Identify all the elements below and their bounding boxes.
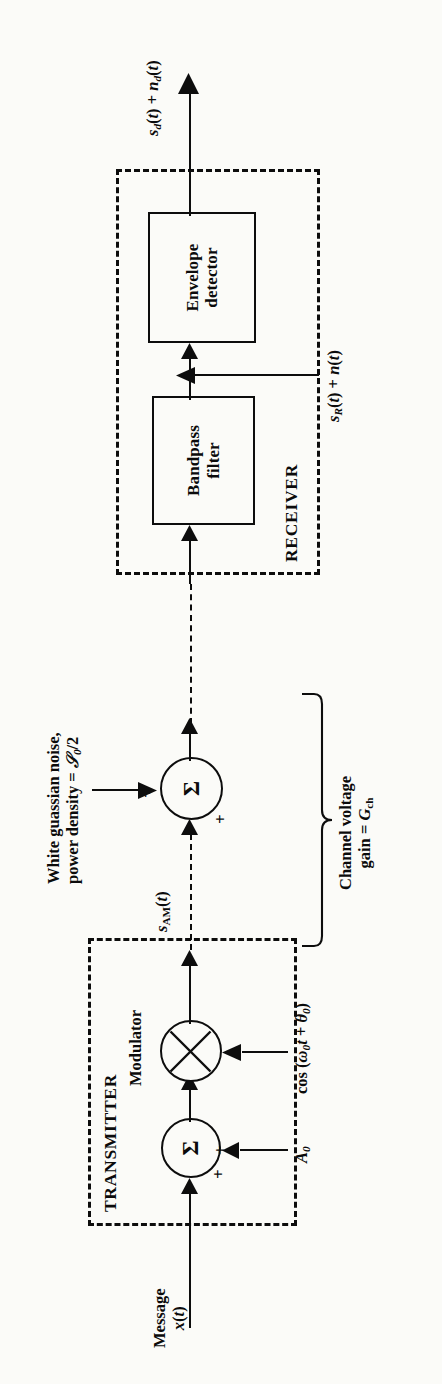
transmitter-section-label: TRANSMITTER [100,1074,121,1212]
carrier-input-line [242,1051,288,1053]
noise-label: White guassian noise, power density = 𝒮0… [44,732,85,884]
modulator-label: Modulator [126,1010,145,1086]
received-signal-arrowhead [176,367,196,384]
envelope-detector-line2: detector [202,244,221,312]
carrier-amplitude-label: A0 [292,1146,313,1163]
bandpass-filter-block: Bandpass filter [152,396,255,525]
transmitter-summer-glyph: Σ [178,1140,204,1155]
noise-input-arrowhead [138,782,158,799]
carrier-label: cos (ω0t + θ0) [292,1003,313,1094]
envelope-detector-line1: Envelope [183,244,202,312]
s-am-label: sAM(t) [152,891,173,932]
channel-summer-plus-signal: + [211,814,231,824]
modulator-output-line [189,962,191,1024]
bandpass-filter-line1: Bandpass [184,425,203,496]
diagram-canvas: TRANSMITTER Message x(t) Σ + + A0 [0,0,442,1384]
received-signal-label: sR(t) + n(t) [324,350,345,422]
noise-input-line [92,789,140,791]
diagram-page: TRANSMITTER Message x(t) Σ + + A0 [0,0,442,1384]
channel-gain-line2: gain = Gch [355,776,376,890]
bandpass-filter-line2: filter [204,425,223,496]
bandpass-input-arrowhead [181,523,199,541]
carrier-input-arrowhead [222,1044,242,1061]
channel-gain-line1: Channel voltage [336,776,355,890]
received-signal-line [192,374,319,376]
modulator-multiplier [160,1020,222,1082]
receiver-input-line [189,534,191,584]
message-label: Message x(t) [150,1288,189,1348]
receiver-section-label: RECEIVER [281,464,302,562]
channel-path-segment-2 [190,584,192,724]
channel-brace [300,692,334,948]
carrier-amplitude-arrowhead [222,1142,240,1159]
channel-gain-label: Channel voltage gain = Gch [336,776,377,890]
noise-label-line2: power density = 𝒮0/2 [63,732,84,884]
channel-summer: Σ [160,757,223,820]
envelope-input-arrowhead [181,341,199,359]
channel-path-segment-1 [190,834,192,950]
output-signal-label: sd(t) + nd(t) [143,60,164,136]
multiplier-cross-icon [161,1023,219,1081]
output-line [189,86,191,216]
envelope-detector-block: Envelope detector [148,212,256,343]
carrier-amplitude-input-line [240,1149,288,1151]
channel-summer-glyph: Σ [179,781,205,796]
noise-label-line1: White guassian noise, [44,732,63,884]
output-arrowhead [178,72,200,94]
message-input-arrowhead [181,1176,199,1194]
modulator-output-arrowhead [181,948,199,966]
message-label-line2: x(t) [169,1288,188,1348]
transmitter-summer-plus-message: + [209,1169,229,1179]
message-label-line1: Message [150,1288,169,1348]
